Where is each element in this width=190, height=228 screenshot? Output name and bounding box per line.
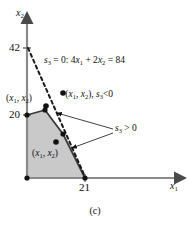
y-axis-label: x2 [16, 8, 24, 20]
constraint-equation-label: s3 = 0: 4x1 + 2x2 = 84 [44, 56, 125, 66]
point-boundary-close-paren: ) [29, 93, 32, 103]
figure-caption: (c) [0, 205, 190, 216]
marker-vertex-15-12 [60, 131, 65, 136]
x-tick-label-21: 21 [79, 182, 90, 193]
plot-canvas [0, 0, 190, 228]
marker-point-inside [53, 139, 59, 145]
figure-container: x2 x1 42 20 21 s3 = 0: 4x1 + 2x2 = 84 •(… [0, 0, 190, 228]
marker-vertex-0-20 [24, 112, 29, 117]
x-axis-label-subscript: 1 [174, 185, 177, 192]
marker-point-boundary [43, 103, 49, 109]
point-inside-label: (x1, x2) [32, 149, 58, 159]
point-inside-close-paren: ) [55, 148, 58, 158]
leader-line-to-inside-point [72, 133, 113, 148]
constraint-plus: + 2 [83, 55, 98, 65]
point-outside-relation: <0 [103, 89, 113, 99]
y-axis-label-subscript: 2 [20, 12, 23, 19]
y-tick-label-20: 20 [9, 109, 20, 120]
x-axis-label: x1 [170, 181, 178, 193]
point-outside-close-paren: ), [88, 89, 96, 99]
constraint-text-after-var: = 0: 4 [51, 55, 76, 65]
point-boundary-label: (x1, x2) [6, 94, 32, 104]
slack-positive-label: s3 > 0 [115, 124, 137, 134]
constraint-equals: = 84 [105, 55, 125, 65]
leader-line-to-boundary-point [57, 113, 113, 129]
y-tick-label-42: 42 [9, 42, 20, 53]
slack-positive-relation: > 0 [122, 123, 137, 133]
marker-vertex-origin [24, 175, 29, 180]
point-outside-label: •(x1, x2), s3<0 [62, 90, 113, 100]
marker-vertex-21-0 [82, 175, 87, 180]
